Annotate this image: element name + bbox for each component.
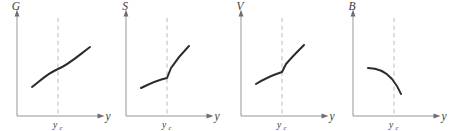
- panel-V-critical-subscript: c: [283, 124, 286, 131]
- panel-G-ylabel: G: [12, 0, 21, 12]
- x-axis-arrow-B: [434, 114, 441, 119]
- panel-S: S y y c: [113, 0, 226, 131]
- panel-S-critical-subscript: c: [168, 124, 171, 131]
- x-axis-arrow-S: [207, 114, 214, 119]
- panel-V-critical-label: y: [276, 120, 282, 130]
- panel-S-critical-label: y: [161, 120, 167, 130]
- panel-B-critical-subscript: c: [395, 124, 398, 131]
- x-axis-arrow-G: [98, 114, 105, 119]
- curve-S: [141, 46, 189, 88]
- panel-B-critical-label: y: [388, 120, 394, 130]
- panel-B-plot: B y y c: [339, 0, 451, 131]
- thermodynamic-quantities-figure: G y y c S y y c V y: [0, 0, 451, 131]
- panel-V-ylabel: V: [236, 0, 245, 12]
- curve-V: [256, 45, 304, 84]
- panel-G-critical-subscript: c: [59, 124, 62, 131]
- panel-G: G y y c: [0, 0, 113, 131]
- panel-V-xlabel: y: [328, 110, 335, 123]
- panel-G-plot: G y y c: [0, 0, 113, 131]
- panel-G-critical-label: y: [52, 120, 58, 130]
- panel-V-plot: V y y c: [226, 0, 339, 131]
- x-axis-arrow-V: [322, 114, 329, 119]
- panel-G-xlabel: y: [104, 110, 111, 123]
- panel-V: V y y c: [226, 0, 339, 131]
- curve-G: [32, 47, 90, 87]
- panel-S-plot: S y y c: [113, 0, 226, 131]
- curve-B: [368, 68, 401, 94]
- panel-B: B y y c: [339, 0, 451, 131]
- panel-B-ylabel: B: [348, 0, 355, 12]
- panel-B-xlabel: y: [440, 110, 447, 123]
- panel-S-ylabel: S: [122, 0, 128, 12]
- panel-S-xlabel: y: [213, 110, 220, 123]
